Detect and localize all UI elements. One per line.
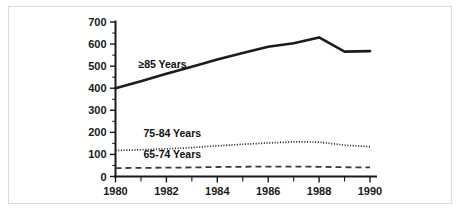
y-tick-label: 400: [88, 82, 106, 94]
series-label-2: 65-74 Years: [143, 148, 201, 160]
chart-screenshot: 0100200300400500600700 19801982198419861…: [0, 0, 466, 219]
y-tick-label: 300: [88, 104, 106, 116]
y-tick-label: 200: [88, 126, 106, 138]
series-line-2: [116, 167, 371, 169]
line-chart: 0100200300400500600700 19801982198419861…: [0, 0, 466, 219]
y-tick-label: 500: [88, 60, 106, 72]
y-tick-label: 100: [88, 148, 106, 160]
x-tick-label: 1988: [307, 185, 331, 197]
series-label-0: ≥85 Years: [138, 58, 186, 70]
y-tick-label: 700: [88, 16, 106, 28]
y-axis: 0100200300400500600700: [88, 16, 115, 183]
x-tick-label: 1982: [154, 185, 178, 197]
series-label-1: 75-84 Years: [143, 127, 201, 139]
x-tick-label: 1984: [205, 185, 230, 197]
x-tick-label: 1986: [256, 185, 280, 197]
x-tick-label: 1980: [103, 185, 127, 197]
x-tick-label: 1990: [358, 185, 382, 197]
y-tick-label: 600: [88, 38, 106, 50]
x-axis: 198019821984198619881990: [103, 177, 382, 198]
y-tick-label: 0: [100, 171, 106, 183]
